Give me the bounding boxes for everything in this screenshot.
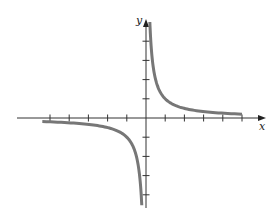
x-axis-label: x	[259, 120, 266, 133]
y-axis-label: y	[135, 14, 143, 27]
y-axis-arrow-icon	[143, 19, 149, 27]
curve-left-branch	[42, 122, 141, 206]
graph-of-reciprocal-function: x y	[0, 0, 279, 220]
axes	[17, 26, 258, 208]
curve-right-branch	[150, 22, 242, 114]
